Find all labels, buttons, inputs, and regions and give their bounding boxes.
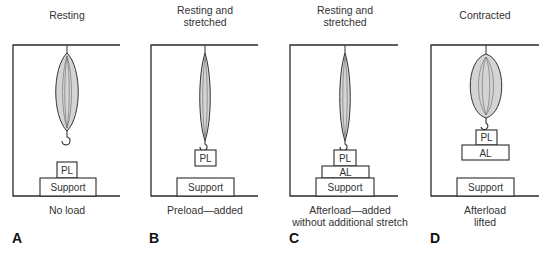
panel-letter: B	[149, 230, 159, 246]
panel-caption: Preload—added	[151, 204, 259, 216]
panel-d: Contracted Afterload lifted D	[418, 0, 549, 257]
panel-a: Resting No load A	[0, 0, 140, 257]
panel-caption: Afterload—added without additional stret…	[277, 204, 423, 228]
panel-title: Contracted	[431, 9, 539, 21]
panel-b: Resting and stretched Preload—added B	[138, 0, 278, 257]
panel-title: Resting	[13, 9, 121, 21]
panel-letter: A	[12, 230, 22, 246]
panel-caption: No load	[13, 204, 121, 216]
panel-c: Resting and stretched Afterload—added wi…	[277, 0, 423, 257]
panel-title: Resting and stretched	[151, 4, 259, 28]
panel-caption: Afterload lifted	[431, 204, 539, 228]
panel-title: Resting and stretched	[291, 4, 399, 28]
panel-letter: D	[430, 230, 440, 246]
panel-letter: C	[289, 230, 299, 246]
